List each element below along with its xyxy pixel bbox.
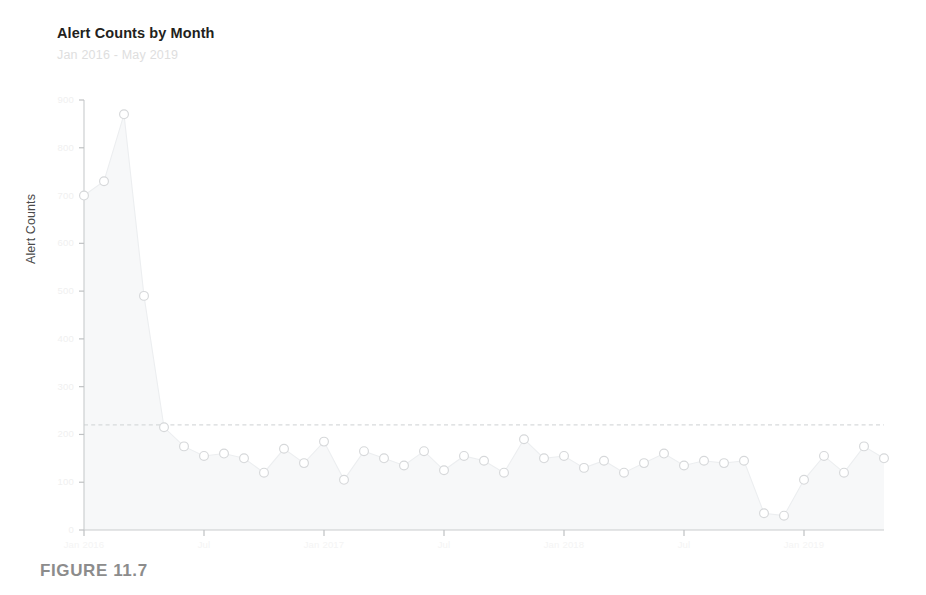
data-point-marker bbox=[220, 449, 229, 458]
data-point-marker bbox=[160, 423, 169, 432]
figure-caption: FIGURE 11.7 bbox=[40, 561, 148, 581]
y-tick-label: 700 bbox=[48, 190, 74, 201]
data-point-marker bbox=[320, 437, 329, 446]
x-tick-label: Jan 2017 bbox=[304, 539, 345, 550]
data-point-marker bbox=[200, 452, 209, 461]
x-tick-label: Jul bbox=[198, 539, 211, 550]
data-point-marker bbox=[360, 447, 369, 456]
data-point-marker bbox=[660, 449, 669, 458]
y-axis-title: Alert Counts bbox=[24, 248, 38, 264]
x-tick-label: Jul bbox=[678, 539, 691, 550]
data-point-marker bbox=[840, 468, 849, 477]
data-point-marker bbox=[180, 442, 189, 451]
data-point-marker bbox=[240, 454, 249, 463]
y-tick-label: 100 bbox=[48, 476, 74, 487]
data-point-marker bbox=[520, 435, 529, 444]
data-point-marker bbox=[80, 191, 89, 200]
data-point-marker bbox=[260, 468, 269, 477]
data-point-marker bbox=[540, 454, 549, 463]
y-tick-label: 400 bbox=[48, 333, 74, 344]
data-point-marker bbox=[380, 454, 389, 463]
y-tick-label: 300 bbox=[48, 381, 74, 392]
data-point-marker bbox=[400, 461, 409, 470]
data-point-marker bbox=[600, 456, 609, 465]
data-point-marker bbox=[420, 447, 429, 456]
data-point-marker bbox=[480, 456, 489, 465]
data-point-marker bbox=[580, 463, 589, 472]
data-point-marker bbox=[140, 291, 149, 300]
data-point-marker bbox=[300, 459, 309, 468]
data-point-marker bbox=[560, 452, 569, 461]
chart-subtitle: Jan 2016 - May 2019 bbox=[57, 48, 178, 62]
data-point-marker bbox=[680, 461, 689, 470]
y-tick-label: 0 bbox=[48, 524, 74, 535]
data-point-marker bbox=[800, 475, 809, 484]
data-point-marker bbox=[620, 468, 629, 477]
y-tick-label: 600 bbox=[48, 237, 74, 248]
data-point-marker bbox=[700, 456, 709, 465]
data-point-marker bbox=[500, 468, 509, 477]
area-fill bbox=[84, 114, 884, 530]
data-point-marker bbox=[760, 509, 769, 518]
figure-container: Alert Counts by Month Jan 2016 - May 201… bbox=[0, 0, 926, 595]
data-point-marker bbox=[460, 452, 469, 461]
y-tick-label: 900 bbox=[48, 94, 74, 105]
chart-title: Alert Counts by Month bbox=[57, 25, 215, 41]
y-tick-label: 800 bbox=[48, 142, 74, 153]
data-point-marker bbox=[440, 466, 449, 475]
data-point-marker bbox=[740, 456, 749, 465]
data-point-marker bbox=[780, 511, 789, 520]
x-tick-label: Jan 2018 bbox=[544, 539, 585, 550]
data-point-marker bbox=[820, 452, 829, 461]
data-point-marker bbox=[640, 459, 649, 468]
data-point-marker bbox=[860, 442, 869, 451]
data-point-marker bbox=[100, 177, 109, 186]
data-point-marker bbox=[280, 444, 289, 453]
x-tick-label: Jan 2016 bbox=[64, 539, 105, 550]
data-point-marker bbox=[340, 475, 349, 484]
series-line bbox=[84, 114, 884, 515]
chart-plot-area bbox=[0, 0, 926, 595]
x-tick-label: Jan 2019 bbox=[784, 539, 825, 550]
data-point-marker bbox=[720, 459, 729, 468]
y-tick-label: 500 bbox=[48, 285, 74, 296]
data-point-marker bbox=[120, 110, 129, 119]
x-tick-label: Jul bbox=[438, 539, 451, 550]
data-point-marker bbox=[880, 454, 889, 463]
y-tick-label: 200 bbox=[48, 428, 74, 439]
